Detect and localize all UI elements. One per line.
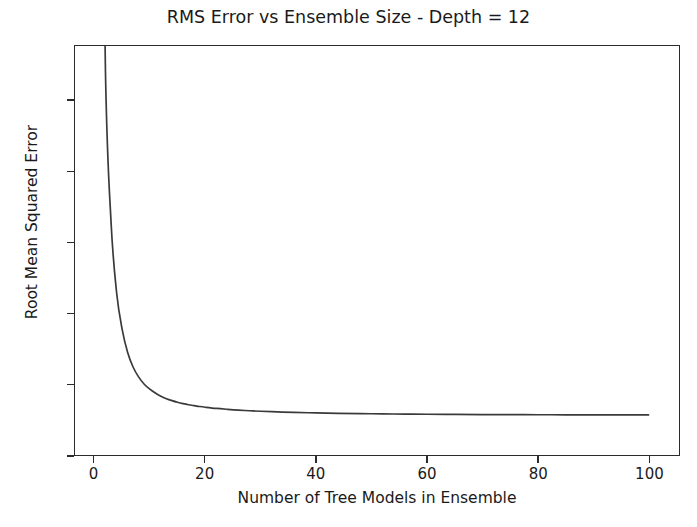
x-axis-label: Number of Tree Models in Ensemble [74, 489, 680, 508]
plot-area [74, 45, 680, 456]
chart-title: RMS Error vs Ensemble Size - Depth = 12 [0, 7, 697, 28]
x-tick-label: 80 [503, 465, 573, 484]
y-tick-mark [67, 384, 74, 386]
y-tick-mark [67, 171, 74, 173]
x-tick-mark [93, 456, 95, 463]
x-tick-mark [315, 456, 317, 463]
x-tick-mark [204, 456, 206, 463]
x-tick-label: 20 [170, 465, 240, 484]
y-tick-mark [67, 313, 74, 315]
x-tick-label: 40 [281, 465, 351, 484]
y-tick-mark [67, 99, 74, 101]
x-tick-mark [649, 456, 651, 463]
x-tick-label: 0 [58, 465, 128, 484]
x-tick-mark [426, 456, 428, 463]
y-tick-mark [67, 455, 74, 457]
y-tick-mark [67, 242, 74, 244]
rmse-curve [75, 46, 679, 455]
chart-figure: RMS Error vs Ensemble Size - Depth = 12 … [0, 0, 697, 527]
rmse-curve-path [100, 46, 649, 415]
y-axis-label: Root Mean Squared Error [23, 12, 41, 432]
x-tick-label: 100 [614, 465, 684, 484]
x-tick-label: 60 [392, 465, 462, 484]
x-tick-mark [537, 456, 539, 463]
